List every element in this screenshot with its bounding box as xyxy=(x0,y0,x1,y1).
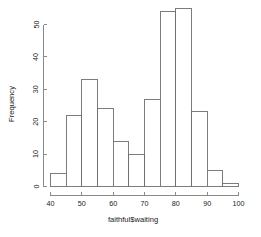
x-axis xyxy=(51,192,239,196)
y-tick-label: 30 xyxy=(32,85,41,93)
y-tick-label: 20 xyxy=(32,118,41,126)
y-tick-label: 50 xyxy=(32,21,41,29)
histogram-bar xyxy=(82,80,98,187)
y-tick-label: 0 xyxy=(32,185,41,189)
histogram-bar xyxy=(176,8,192,186)
histogram-bar xyxy=(113,141,129,186)
histogram-bar xyxy=(145,99,161,186)
x-tick-label: 50 xyxy=(78,199,86,208)
histogram-screenshot: 01020304050 405060708090100 faithful$wai… xyxy=(0,0,261,237)
y-tick-label: 40 xyxy=(32,53,41,61)
x-axis-title: faithful$waiting xyxy=(108,215,158,224)
x-tick-labels: 405060708090100 xyxy=(47,199,245,208)
histogram-bar xyxy=(98,109,114,187)
histogram-bar xyxy=(192,112,208,187)
histogram-bar xyxy=(66,115,82,186)
x-tick-label: 60 xyxy=(109,199,117,208)
y-axis-title: Frequency xyxy=(7,86,16,122)
histogram-bar xyxy=(51,174,67,187)
histogram-bar xyxy=(223,183,239,186)
bars-group xyxy=(51,8,239,186)
histogram-bar xyxy=(160,12,176,187)
x-tick-label: 100 xyxy=(233,199,245,208)
x-tick-label: 70 xyxy=(141,199,149,208)
y-tick-label: 10 xyxy=(32,150,41,158)
x-tick-label: 80 xyxy=(172,199,180,208)
x-tick-label: 40 xyxy=(47,199,55,208)
y-tick-labels: 01020304050 xyxy=(32,21,41,189)
y-axis xyxy=(44,25,48,187)
histogram-plot: 01020304050 405060708090100 faithful$wai… xyxy=(0,0,261,237)
histogram-bar xyxy=(207,170,223,186)
histogram-bar xyxy=(129,154,145,186)
x-tick-label: 90 xyxy=(203,199,211,208)
